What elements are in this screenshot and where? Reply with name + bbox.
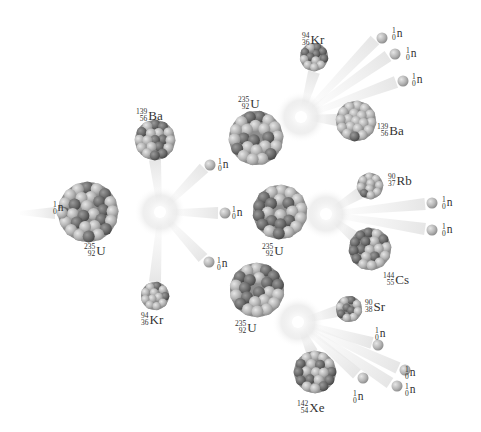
- nucleon-numbers: 10: [375, 327, 379, 341]
- element-symbol: Rb: [397, 174, 412, 187]
- isotope-label-n1c: 10n: [217, 257, 228, 271]
- nucleus-rb: [357, 173, 384, 200]
- atomic-number: 0: [353, 397, 357, 404]
- neutron: [220, 208, 231, 219]
- element-symbol: n: [58, 202, 64, 214]
- isotope-label-n4b: 10n: [353, 390, 364, 404]
- atomic-number: 0: [442, 230, 446, 237]
- isotope-label-sr: 9038Sr: [365, 299, 385, 313]
- nucleon-numbers: 10: [353, 390, 357, 404]
- nucleon-numbers: 10: [53, 201, 57, 215]
- atomic-number: 56: [140, 115, 148, 122]
- atomic-number: 92: [266, 250, 274, 257]
- element-symbol: n: [447, 197, 453, 209]
- atomic-number: 92: [242, 103, 250, 110]
- element-symbol: n: [417, 74, 423, 86]
- nucleon-numbers: 23592: [84, 243, 95, 257]
- element-symbol: U: [247, 321, 256, 334]
- element-symbol: n: [410, 367, 416, 379]
- element-symbol: Ba: [148, 109, 162, 122]
- atomic-number: 54: [301, 407, 309, 414]
- element-symbol: n: [410, 384, 416, 396]
- element-symbol: n: [358, 391, 364, 403]
- isotope-label-kr1: 9436Kr: [141, 312, 163, 326]
- atomic-number: 56: [381, 130, 389, 137]
- isotope-label-u3: 23592U: [235, 320, 257, 334]
- nucleon-numbers: 13956: [377, 123, 388, 137]
- atomic-number: 92: [88, 250, 96, 257]
- element-symbol: n: [447, 224, 453, 236]
- neutron: [427, 225, 438, 236]
- nucleon-numbers: 10: [406, 47, 410, 61]
- nucleon-numbers: 9037: [388, 173, 396, 187]
- isotope-label-n2c: 10n: [412, 73, 423, 87]
- isotope-label-n4d: 10n: [405, 383, 416, 397]
- isotope-label-n4c: 10n: [405, 366, 416, 380]
- element-symbol: n: [380, 328, 386, 340]
- element-symbol: Kr: [311, 33, 325, 46]
- neutron: [358, 373, 369, 384]
- nucleon-numbers: 23592: [235, 320, 246, 334]
- element-symbol: Sr: [374, 300, 386, 313]
- nucleon-numbers: 10: [232, 206, 236, 220]
- atomic-number: 0: [412, 80, 416, 87]
- atomic-number: 92: [239, 327, 247, 334]
- nucleon-numbers: 23592: [238, 96, 249, 110]
- isotope-label-xe: 14254Xe: [297, 400, 324, 414]
- nucleus-kr2: [300, 43, 329, 71]
- isotope-label-cs: 14455Cs: [383, 272, 409, 286]
- burst-core: [154, 206, 166, 218]
- burst-core: [295, 111, 307, 123]
- nucleon-numbers: 10: [218, 158, 222, 172]
- atomic-number: 0: [406, 54, 410, 61]
- element-symbol: U: [274, 244, 283, 257]
- nucleon-numbers: 9436: [302, 32, 310, 46]
- element-symbol: Kr: [150, 313, 164, 326]
- neutron: [205, 160, 216, 171]
- neutron: [204, 257, 215, 268]
- isotope-label-ba1: 13956Ba: [136, 108, 163, 122]
- atomic-number: 36: [302, 39, 310, 46]
- nucleon-numbers: 10: [405, 366, 409, 380]
- element-symbol: n: [222, 258, 228, 270]
- isotope-label-u0: 23592U: [84, 243, 106, 257]
- fission-diagram: 10n23592U13956Ba9436Kr10n10n10n23592U235…: [0, 0, 481, 432]
- atomic-number: 0: [392, 34, 396, 41]
- nucleon-numbers: 9436: [141, 312, 149, 326]
- nucleus-u2: [253, 184, 308, 239]
- element-symbol: n: [411, 48, 417, 60]
- atomic-number: 0: [442, 203, 446, 210]
- element-symbol: n: [223, 159, 229, 171]
- element-symbol: n: [397, 28, 403, 40]
- atomic-number: 55: [387, 279, 395, 286]
- neutron: [377, 33, 388, 44]
- atomic-number: 0: [232, 213, 236, 220]
- atomic-number: 0: [405, 373, 409, 380]
- nucleon-numbers: 10: [392, 27, 396, 41]
- isotope-label-ba2: 13956Ba: [377, 123, 404, 137]
- nucleus-sr: [336, 296, 362, 322]
- neutron: [398, 76, 409, 87]
- nucleus-xe: [294, 351, 337, 394]
- atomic-number: 0: [217, 264, 221, 271]
- nucleus-ba1: [135, 120, 176, 161]
- nucleon-numbers: 10: [217, 257, 221, 271]
- isotope-label-n3a: 10n: [442, 196, 453, 210]
- nucleon-numbers: 9038: [365, 299, 373, 313]
- atomic-number: 36: [141, 319, 149, 326]
- nucleon-numbers: 13956: [136, 108, 147, 122]
- nucleon-numbers: 23592: [262, 243, 273, 257]
- element-symbol: Cs: [395, 273, 409, 286]
- element-symbol: n: [237, 207, 243, 219]
- burst-core: [292, 316, 304, 328]
- element-symbol: Xe: [309, 401, 324, 414]
- isotope-label-n1b: 10n: [232, 206, 243, 220]
- nucleon-numbers: 10: [412, 73, 416, 87]
- nucleus-kr1: [141, 282, 169, 311]
- element-symbol: U: [96, 244, 105, 257]
- isotope-label-n0: 10n: [53, 201, 64, 215]
- burst-core: [320, 208, 332, 220]
- atomic-number: 0: [375, 334, 379, 341]
- nucleon-numbers: 10: [405, 383, 409, 397]
- isotope-label-u1: 23592U: [238, 96, 260, 110]
